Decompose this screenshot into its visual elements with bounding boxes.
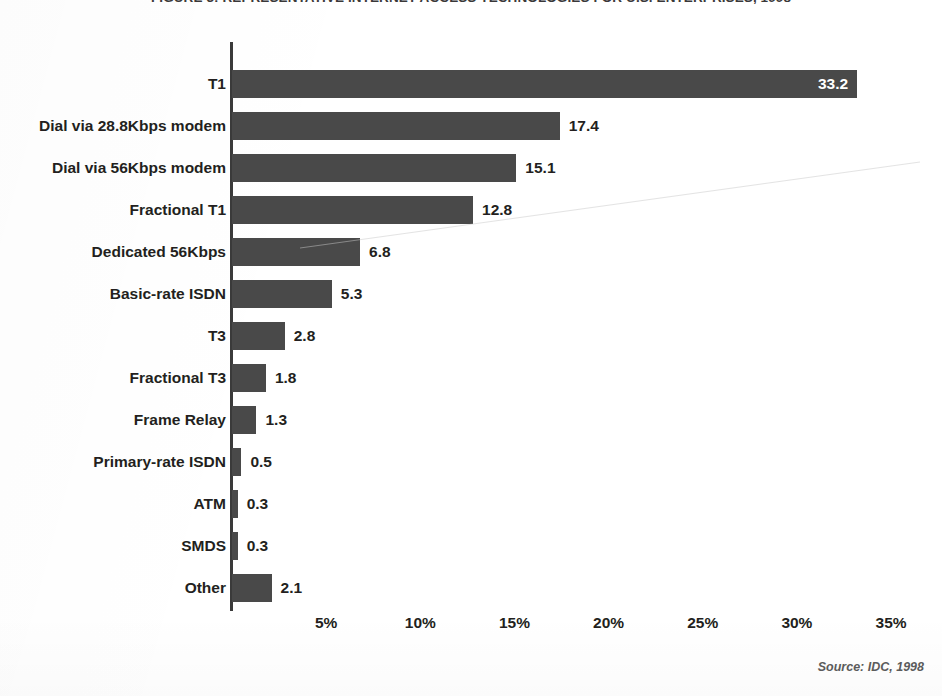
bar-row: SMDS0.3 [0,525,942,567]
bar-track: 0.5 [232,441,361,483]
category-label: Basic-rate ISDN [110,273,226,315]
x-axis: 5%10%15%20%25%30%35% [0,614,942,644]
bar-track: 0.3 [232,525,358,567]
bar-value-label: 1.3 [256,406,287,434]
bar-value-label: 33.2 [232,70,857,98]
bar [232,280,332,308]
category-label: Dedicated 56Kbps [92,231,226,273]
x-axis-tick-label: 10% [405,614,436,632]
bar-chart: T133.2Dial via 28.8Kbps modem17.4Dial vi… [0,0,942,696]
bar-row: Frame Relay1.3 [0,399,942,441]
bar [232,238,360,266]
bar [232,574,272,602]
bar [232,448,241,476]
bar-row: Fractional T112.8 [0,189,942,231]
category-label: Primary-rate ISDN [93,441,226,483]
x-axis-tick-label: 30% [781,614,812,632]
x-axis-tick-label: 25% [687,614,718,632]
bar-row: Other2.1 [0,567,942,609]
bar-row: T32.8 [0,315,942,357]
bar-row: Dedicated 56Kbps6.8 [0,231,942,273]
x-axis-tick-label: 15% [499,614,530,632]
bar-value-label: 2.8 [285,322,316,350]
bar-track: 5.3 [232,273,452,315]
bar-value-label: 6.8 [360,238,391,266]
x-axis-tick-label: 20% [593,614,624,632]
bar-row: Dial via 56Kbps modem15.1 [0,147,942,189]
bar-row: Dial via 28.8Kbps modem17.4 [0,105,942,147]
bar-value-label: 1.8 [266,364,297,392]
bar-track: 1.3 [232,399,376,441]
bar-track: 2.8 [232,315,405,357]
bar [232,406,256,434]
bar-track: 0.3 [232,483,358,525]
category-label: Fractional T1 [130,189,226,231]
bar-track: 33.2 [232,63,942,105]
bar [232,154,516,182]
source-note: Source: IDC, 1998 [818,660,924,674]
category-label: Dial via 56Kbps modem [52,147,226,189]
x-axis-tick-label: 35% [876,614,907,632]
category-label: T1 [208,63,226,105]
bar-track: 6.8 [232,231,480,273]
bar [232,364,266,392]
bar-value-label: 17.4 [560,112,599,140]
category-label: Other [185,567,226,609]
bar-track: 1.8 [232,357,386,399]
bar-value-label: 2.1 [272,574,303,602]
bar [232,322,285,350]
category-label: T3 [208,315,226,357]
bar-row: ATM0.3 [0,483,942,525]
category-label: Fractional T3 [130,357,226,399]
bar-row: Fractional T31.8 [0,357,942,399]
bar-row: Basic-rate ISDN5.3 [0,273,942,315]
category-label: Dial via 28.8Kbps modem [39,105,226,147]
bar-value-label: 0.5 [241,448,272,476]
bar-value-label: 0.3 [238,490,269,518]
category-label: ATM [194,483,226,525]
category-label: SMDS [181,525,226,567]
bar-track: 12.8 [232,189,593,231]
bar-value-label: 0.3 [238,532,269,560]
bar-track: 17.4 [232,105,680,147]
bar-value-label: 5.3 [332,280,363,308]
bar-row: Primary-rate ISDN0.5 [0,441,942,483]
bar [232,112,560,140]
bar-value-label: 15.1 [516,154,555,182]
category-label: Frame Relay [134,399,226,441]
bar-value-label: 12.8 [473,196,512,224]
bar-track: 2.1 [232,567,392,609]
x-axis-tick-label: 5% [315,614,337,632]
bar-row: T133.2 [0,63,942,105]
bar [232,196,473,224]
bar-track: 15.1 [232,147,636,189]
